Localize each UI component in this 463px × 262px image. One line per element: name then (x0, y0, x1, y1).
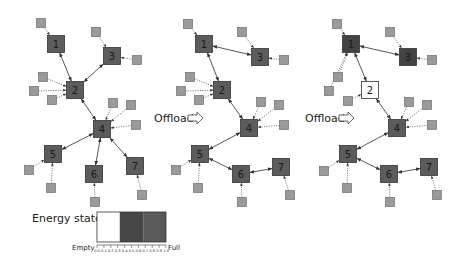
device-square-icon (280, 121, 289, 130)
device-link (99, 37, 106, 48)
node-link-1-2 (208, 53, 219, 81)
node-link-1-2 (355, 53, 367, 81)
scale-tick-label: 0.1 (101, 249, 107, 253)
panel-offload-1: 1234567Offload (154, 20, 295, 207)
device-link (186, 90, 214, 91)
device-link (258, 125, 280, 127)
device-square-icon (132, 121, 141, 130)
device-link (111, 126, 132, 128)
device-square-icon (386, 28, 395, 37)
device-link (340, 53, 348, 73)
node-5: 5 (192, 146, 209, 163)
node-label: 5 (50, 149, 56, 160)
legend-empty-label: Empty (72, 244, 95, 252)
device-link (44, 28, 49, 36)
scale-tick-label: 0.5 (129, 249, 135, 253)
device-square-icon (195, 96, 204, 105)
device-square-icon (92, 28, 101, 37)
node-4: 4 (389, 120, 406, 137)
device-square-icon (334, 73, 343, 82)
device-link (406, 108, 423, 121)
device-link (389, 183, 390, 198)
node-link-2-4 (376, 99, 390, 119)
energy-segment (143, 212, 166, 242)
device-square-icon (133, 56, 142, 65)
node-link-5-6 (209, 158, 232, 169)
energy-offload-diagram: 12345671234567Offload1234567Offload Ener… (0, 0, 463, 262)
node-label: 2 (367, 85, 373, 96)
device-link (195, 79, 214, 87)
node-link-2-4 (228, 99, 242, 119)
scale-tick-label: 0.4 (122, 249, 128, 253)
device-link (48, 79, 67, 87)
node-label: 2 (72, 85, 78, 96)
node-6: 6 (86, 166, 103, 183)
device-square-icon (280, 56, 289, 65)
device-square-icon (39, 73, 48, 82)
node-2: 2 (362, 82, 379, 99)
scale-tick-label: 0.3 (115, 249, 121, 253)
node-4: 4 (241, 120, 258, 137)
node-1: 1 (48, 36, 65, 53)
device-square-icon (325, 87, 334, 96)
device-link (258, 108, 275, 121)
node-label: 4 (394, 123, 400, 134)
energy-scale-ticks: 0.00.10.20.30.40.50.60.70.80.91.0 (94, 245, 169, 253)
device-square-icon (37, 19, 46, 28)
legend-full-label: Full (168, 244, 180, 252)
node-link-6-7 (398, 169, 420, 173)
device-square-icon (30, 87, 39, 96)
device-square-icon (48, 96, 57, 105)
node-label: 5 (345, 149, 351, 160)
device-link (204, 94, 214, 98)
device-link (253, 107, 259, 120)
device-square-icon (238, 28, 247, 37)
node-label: 6 (386, 169, 392, 180)
node-1: 1 (343, 36, 360, 53)
device-square-icon (275, 101, 284, 110)
device-link (106, 108, 111, 121)
node-link-1-3 (213, 46, 251, 55)
device-link (181, 160, 192, 167)
device-link (111, 109, 127, 122)
device-square-icon (405, 98, 414, 107)
node-link-2-3 (84, 64, 103, 81)
scale-tick-label: 0.9 (156, 249, 162, 253)
node-link-2-4 (81, 99, 96, 120)
node-2: 2 (214, 82, 231, 99)
device-link (245, 37, 253, 49)
panel-before: 1234567 (25, 19, 147, 207)
device-link (284, 176, 289, 191)
device-link (121, 57, 133, 59)
device-link (432, 176, 436, 191)
scale-tick-label: 0.2 (108, 249, 114, 253)
device-square-icon (91, 198, 100, 207)
node-label: 3 (109, 51, 115, 62)
device-link (340, 29, 345, 36)
device-square-icon (343, 184, 352, 193)
node-7: 7 (421, 159, 438, 176)
device-link (192, 29, 197, 36)
node-link-4-5 (357, 133, 388, 149)
node-3: 3 (252, 49, 269, 66)
node-label: 7 (278, 162, 284, 173)
energy-segment (120, 212, 143, 242)
device-link (329, 160, 340, 167)
device-square-icon (333, 20, 342, 29)
scale-tick-label: 0.7 (142, 249, 148, 253)
energy-bar (97, 212, 166, 242)
node-3: 3 (104, 48, 121, 65)
device-link (401, 107, 407, 120)
node-2: 2 (67, 82, 84, 99)
device-link (34, 160, 45, 167)
scale-tick-label: 1.0 (163, 249, 169, 253)
node-label: 4 (99, 124, 105, 135)
device-square-icon (320, 167, 329, 176)
node-7: 7 (127, 158, 144, 175)
node-link-4-5 (209, 133, 240, 149)
node-5: 5 (45, 146, 62, 163)
device-link (269, 58, 280, 59)
device-square-icon (109, 99, 118, 108)
device-square-icon (186, 73, 195, 82)
device-square-icon (428, 121, 437, 130)
